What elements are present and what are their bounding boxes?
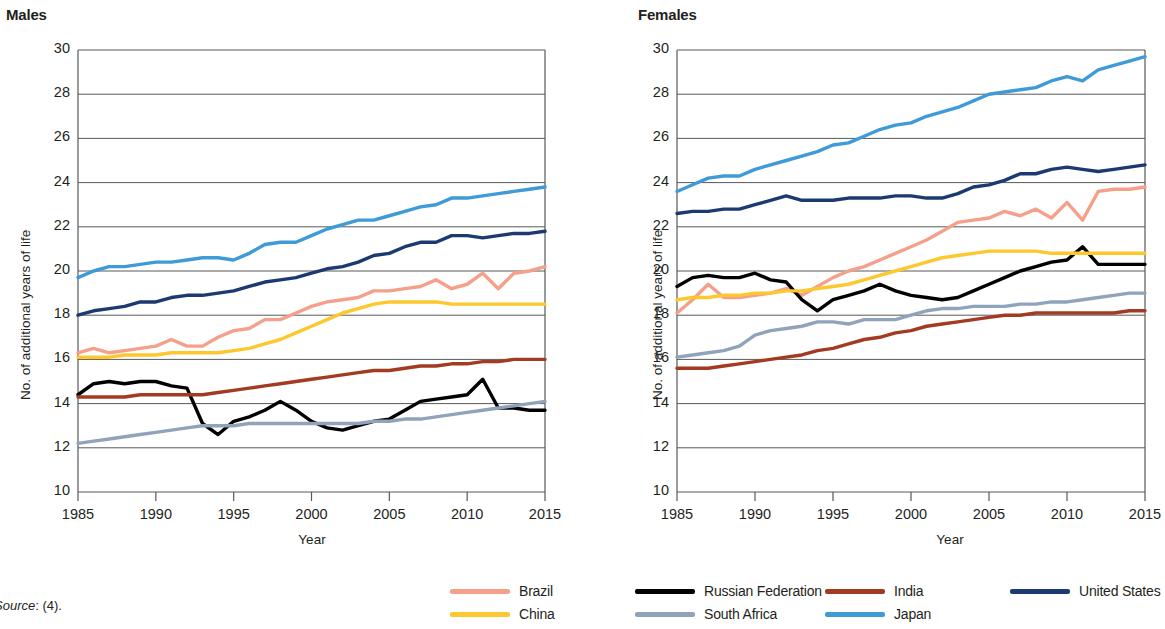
legend-label-india: India bbox=[894, 583, 923, 599]
y-tick-label: 10 bbox=[633, 482, 669, 498]
y-tick-label: 20 bbox=[633, 261, 669, 277]
plot-area-males bbox=[0, 0, 590, 560]
x-tick-label: 1985 bbox=[48, 506, 108, 522]
legend-label-brazil: Brazil bbox=[519, 583, 553, 599]
source-note-value: : (4). bbox=[35, 598, 62, 613]
y-tick-label: 30 bbox=[34, 40, 70, 56]
y-tick-label: 22 bbox=[633, 217, 669, 233]
legend-item-china: China bbox=[450, 603, 635, 625]
y-tick-label: 18 bbox=[34, 305, 70, 321]
legend-item-russian-federation: Russian Federation bbox=[635, 580, 825, 602]
legend-label-south-africa: South Africa bbox=[704, 606, 777, 622]
legend-label-japan: Japan bbox=[894, 606, 931, 622]
x-tick-label: 1985 bbox=[647, 506, 707, 522]
legend-item-brazil: Brazil bbox=[450, 580, 635, 602]
legend-swatch-japan bbox=[825, 612, 885, 617]
x-tick-label: 1990 bbox=[725, 506, 785, 522]
y-tick-label: 20 bbox=[34, 261, 70, 277]
legend-item-india: India bbox=[825, 580, 1010, 602]
y-tick-label: 26 bbox=[34, 128, 70, 144]
x-tick-label: 2000 bbox=[881, 506, 941, 522]
plot-area-females bbox=[590, 0, 1165, 560]
legend-swatch-south-africa bbox=[635, 612, 695, 617]
x-tick-label: 2005 bbox=[959, 506, 1019, 522]
chart-legend: Brazil Russian Federation India United S… bbox=[450, 580, 1165, 629]
x-tick-label: 2010 bbox=[1037, 506, 1097, 522]
legend-label-united-states: United States bbox=[1079, 583, 1160, 599]
y-tick-label: 28 bbox=[633, 84, 669, 100]
legend-item-united-states: United States bbox=[1010, 580, 1165, 602]
x-tick-label: 1995 bbox=[204, 506, 264, 522]
legend-swatch-united-states bbox=[1010, 589, 1070, 594]
y-tick-label: 14 bbox=[633, 394, 669, 410]
y-tick-label: 12 bbox=[633, 438, 669, 454]
x-tick-label: 1995 bbox=[803, 506, 863, 522]
legend-swatch-russian-federation bbox=[635, 589, 695, 594]
legend-item-empty bbox=[1010, 603, 1165, 625]
y-tick-label: 18 bbox=[633, 305, 669, 321]
y-tick-label: 12 bbox=[34, 438, 70, 454]
x-tick-label: 2015 bbox=[515, 506, 575, 522]
legend-row-top: Brazil Russian Federation India United S… bbox=[450, 580, 1165, 602]
legend-row-bottom: China South Africa Japan bbox=[450, 603, 1165, 625]
y-tick-label: 22 bbox=[34, 217, 70, 233]
x-tick-label: 1990 bbox=[126, 506, 186, 522]
y-tick-label: 14 bbox=[34, 394, 70, 410]
chart-panel-females: Females No. of additional years of life … bbox=[590, 0, 1165, 560]
y-tick-label: 10 bbox=[34, 482, 70, 498]
y-tick-label: 24 bbox=[34, 173, 70, 189]
source-note: Source: (4). bbox=[0, 598, 62, 613]
legend-item-south-africa: South Africa bbox=[635, 603, 825, 625]
y-tick-label: 24 bbox=[633, 173, 669, 189]
legend-label-russian-federation: Russian Federation bbox=[704, 583, 822, 599]
x-tick-label: 2010 bbox=[437, 506, 497, 522]
source-note-label: Source bbox=[0, 598, 35, 613]
legend-item-japan: Japan bbox=[825, 603, 1010, 625]
x-tick-label: 2015 bbox=[1115, 506, 1165, 522]
y-tick-label: 26 bbox=[633, 128, 669, 144]
chart-panel-males: Males No. of additional years of life Ye… bbox=[0, 0, 590, 560]
y-tick-label: 28 bbox=[34, 84, 70, 100]
x-tick-label: 2000 bbox=[282, 506, 342, 522]
legend-swatch-india bbox=[825, 589, 885, 594]
legend-swatch-china bbox=[450, 612, 510, 617]
y-tick-label: 30 bbox=[633, 40, 669, 56]
legend-swatch-brazil bbox=[450, 589, 510, 594]
y-tick-label: 16 bbox=[34, 349, 70, 365]
life-expectancy-figure: Males No. of additional years of life Ye… bbox=[0, 0, 1165, 629]
y-tick-label: 16 bbox=[633, 349, 669, 365]
x-tick-label: 2005 bbox=[359, 506, 419, 522]
legend-label-china: China bbox=[519, 606, 555, 622]
